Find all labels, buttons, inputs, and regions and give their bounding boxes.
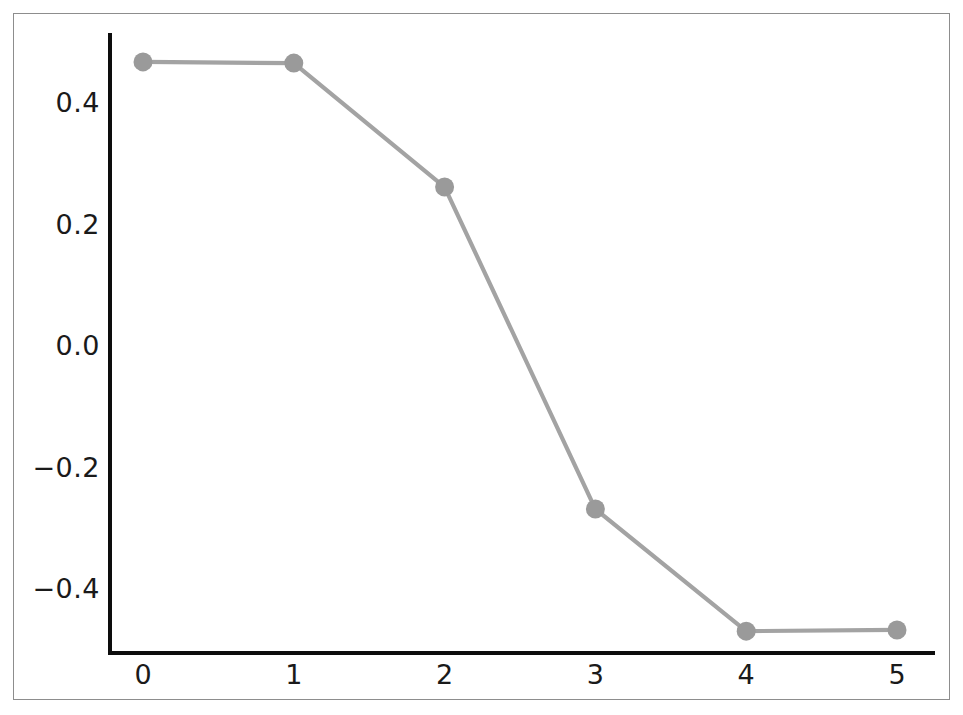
series-line	[143, 62, 897, 631]
data-point-marker	[134, 52, 153, 71]
data-point-marker	[284, 54, 303, 73]
data-point-marker	[737, 622, 756, 641]
data-series-layer	[0, 0, 963, 715]
data-point-marker	[435, 178, 454, 197]
plot-area: 0.40.20.0−0.2−0.4 012345	[0, 0, 963, 715]
chart-figure: 0.40.20.0−0.2−0.4 012345	[0, 0, 963, 715]
data-point-marker	[586, 500, 605, 519]
data-point-marker	[888, 620, 907, 639]
